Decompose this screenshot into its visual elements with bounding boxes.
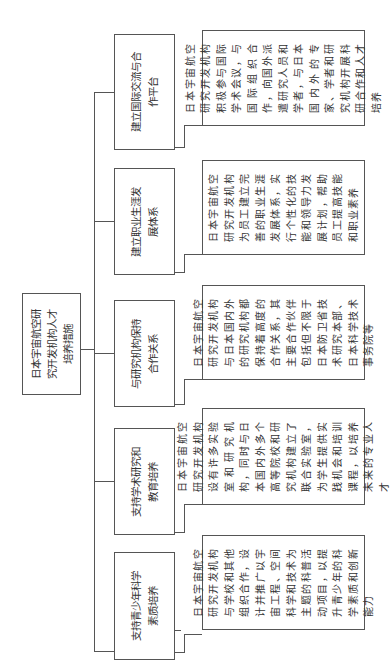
- elbow-1-v: [175, 652, 184, 653]
- branch-label: 支持青少年科学素质培养: [128, 567, 162, 645]
- root-connector: [81, 349, 94, 350]
- branch-label: 建立职业生涯发展体系: [128, 183, 162, 260]
- branch-connector-5: [94, 92, 114, 93]
- detail-text: 日本宇宙航空研究开发机构积极参与国际学术会议，与国际组织合作，向国外派遣研究人员…: [183, 43, 385, 113]
- detail-connector-1-v: [175, 630, 181, 631]
- elbow-2-h: [184, 505, 185, 533]
- elbow-1-v2: [184, 634, 202, 635]
- branch-node-1: 支持青少年科学素质培养: [114, 552, 175, 660]
- trunk-line: [94, 93, 95, 652]
- branch-label: 建立国际交流与合作平台: [128, 49, 162, 135]
- branch-node-4: 建立职业生涯发展体系: [114, 168, 175, 275]
- elbow-5-h: [184, 126, 185, 148]
- detail-text: 日本宇宙航空研究开发机构为员工建立完善的职业生涯发展体系，实行个性化的技能和领导…: [206, 173, 361, 242]
- elbow-2-v: [175, 532, 184, 533]
- detail-node-2: 日本宇宙航空研究开发机构设有许多实验室和研究机构，同时与日本国内外多个高等院校和…: [202, 408, 365, 505]
- detail-node-4: 日本宇宙航空研究开发机构为员工建立完善的职业生涯发展体系，实行个性化的技能和领导…: [202, 160, 365, 255]
- branch-node-5: 建立国际交流与合作平台: [114, 34, 175, 150]
- branch-node-3: 与研究机构保持合作关系: [114, 300, 175, 407]
- detail-node-3: 日本宇宙航空研究开发机构与日本国内外的研究机构都保持着高度的合作关系，其主要合作…: [202, 285, 365, 380]
- elbow-4-v2: [184, 254, 202, 255]
- elbow-3-v: [175, 404, 184, 405]
- detail-node-5: 日本宇宙航空研究开发机构积极参与国际学术会议，与国际组织合作，向国外派遣研究人员…: [202, 30, 365, 126]
- branch-connector-3: [94, 353, 114, 354]
- branch-connector-2: [94, 481, 114, 482]
- branch-connector-4: [94, 221, 114, 222]
- elbow-4-h: [184, 255, 185, 273]
- elbow-1-h: [184, 635, 185, 653]
- elbow-5-v2: [184, 125, 202, 126]
- elbow-5-v: [175, 147, 184, 148]
- branch-label: 与研究机构保持合作关系: [128, 315, 162, 392]
- branch-label: 支持学术研究和教育培养: [128, 443, 162, 520]
- elbow-4-v: [175, 272, 184, 273]
- branch-connector-1: [94, 651, 114, 652]
- branch-node-2: 支持学术研究和教育培养: [114, 428, 175, 535]
- root-node: 日本宇宙航空研究开发机构人才培养措施: [22, 293, 81, 395]
- elbow-2-v2: [184, 504, 202, 505]
- detail-text: 日本宇宙航空研究开发机构设有许多实验室和研究机构，同时与日本国内外多个高等院校和…: [175, 421, 392, 492]
- detail-text: 日本宇宙航空研究开发机构与学校和其他组织合作，设计并推广以宇宙工程、空间科学和技…: [191, 548, 377, 617]
- elbow-3-v2: [184, 379, 202, 380]
- detail-text: 日本宇宙航空研究开发机构与日本国内外的研究机构都保持着高度的合作关系，其主要合作…: [191, 298, 377, 367]
- elbow-3-h: [184, 380, 185, 405]
- detail-node-1: 日本宇宙航空研究开发机构与学校和其他组织合作，设计并推广以宇宙工程、空间科学和技…: [202, 535, 365, 630]
- root-label: 日本宇宙航空研究开发机构人才培养措施: [28, 308, 76, 380]
